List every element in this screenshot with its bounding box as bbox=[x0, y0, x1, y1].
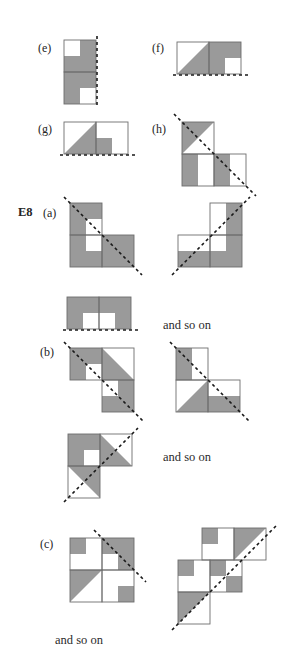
fig-c-right bbox=[170, 522, 290, 632]
fig-b-third bbox=[62, 428, 154, 504]
fig-g-svg bbox=[60, 118, 142, 164]
figure-label-h: (h) bbox=[152, 122, 166, 137]
fig-f-svg bbox=[173, 38, 255, 84]
fig-f bbox=[173, 38, 255, 84]
and-so-on-text-b: and so on bbox=[163, 450, 211, 465]
exercise-label-e8: E8 bbox=[18, 205, 33, 220]
fig-b-third-svg bbox=[62, 428, 154, 504]
fig-a-left-svg bbox=[62, 195, 152, 287]
figure-label-e: (e) bbox=[38, 41, 51, 56]
figure-page: (e) (f) (g bbox=[0, 0, 295, 660]
fig-b-left bbox=[62, 340, 154, 428]
fig-b-left-svg bbox=[62, 340, 154, 428]
fig-e-svg bbox=[60, 36, 120, 108]
fig-a-left bbox=[62, 195, 152, 287]
fig-e bbox=[60, 36, 120, 108]
fig-a-right bbox=[170, 195, 266, 287]
fig-a-third-svg bbox=[63, 293, 145, 339]
figure-label-g: (g) bbox=[38, 122, 52, 137]
figure-label-a: (a) bbox=[43, 206, 56, 221]
fig-h-svg bbox=[172, 112, 262, 192]
fig-a-third bbox=[63, 293, 145, 339]
fig-a-right-svg bbox=[170, 195, 266, 287]
fig-g bbox=[60, 118, 142, 164]
and-so-on-text-c: and so on bbox=[55, 633, 103, 648]
fig-b-right bbox=[168, 340, 262, 428]
fig-b-right-svg bbox=[168, 340, 262, 428]
fig-c-right-svg bbox=[170, 522, 290, 632]
fig-h bbox=[172, 112, 262, 192]
fig-c-left bbox=[62, 522, 154, 620]
figure-label-c: (c) bbox=[40, 537, 53, 552]
figure-label-f: (f) bbox=[152, 41, 164, 56]
and-so-on-text-a: and so on bbox=[163, 318, 211, 333]
figure-label-b: (b) bbox=[40, 345, 54, 360]
fig-c-left-svg bbox=[62, 522, 154, 620]
